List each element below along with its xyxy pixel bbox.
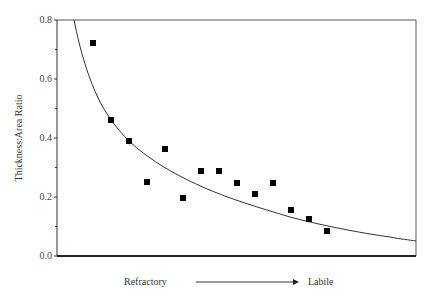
data-point bbox=[306, 216, 312, 222]
data-point bbox=[288, 207, 294, 213]
data-point bbox=[234, 180, 240, 186]
data-point bbox=[108, 117, 114, 123]
arrow-right-icon bbox=[196, 279, 299, 285]
data-point bbox=[144, 179, 150, 185]
data-point bbox=[198, 168, 204, 174]
y-tick-4: 0.8 bbox=[40, 14, 53, 25]
scatter-chart: 0.0 0.2 0.4 0.6 0.8 Thickness:Area Ratio… bbox=[0, 0, 432, 298]
y-axis-tick-labels: 0.0 0.2 0.4 0.6 0.8 bbox=[40, 14, 53, 261]
data-point bbox=[270, 180, 276, 186]
data-point bbox=[162, 146, 168, 152]
data-point bbox=[126, 138, 132, 144]
y-tick-1: 0.2 bbox=[40, 191, 53, 202]
data-point bbox=[324, 228, 330, 234]
fitted-curve bbox=[74, 20, 416, 241]
data-point bbox=[90, 40, 96, 46]
y-tick-2: 0.4 bbox=[40, 132, 53, 143]
data-point bbox=[216, 168, 222, 174]
x-label-labile: Labile bbox=[308, 276, 334, 287]
data-point bbox=[252, 191, 258, 197]
plot-frame bbox=[57, 20, 416, 256]
y-axis-title: Thickness:Area Ratio bbox=[13, 95, 24, 182]
y-tick-0: 0.0 bbox=[40, 250, 53, 261]
y-tick-3: 0.6 bbox=[40, 73, 53, 84]
x-label-refractory: Refractory bbox=[124, 276, 167, 287]
data-point bbox=[180, 195, 186, 201]
data-points bbox=[90, 40, 330, 234]
